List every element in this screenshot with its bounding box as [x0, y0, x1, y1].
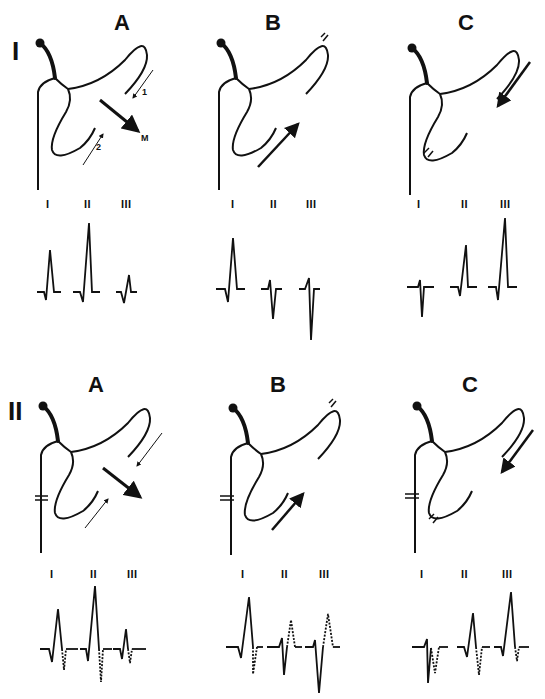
ecg-lead-III [488, 218, 517, 300]
heart-diagram-IB [217, 33, 329, 190]
ecg-lead-III [299, 278, 320, 340]
ecg-traces-row-II [40, 586, 529, 693]
ecg-traces-row-I [37, 218, 517, 340]
heart-diagram-IA [36, 39, 154, 191]
ecg-lead-II [80, 586, 99, 661]
conduction-diagram [0, 0, 545, 699]
ecg-lead-II [261, 280, 282, 319]
ecg-lead-II [267, 638, 287, 675]
ecg-lead-II [450, 245, 477, 296]
heart-diagram-IIB [220, 399, 340, 555]
ecg-lead-II [457, 613, 476, 657]
ecg-lead-III [116, 275, 137, 303]
ecg-lead-I [40, 609, 62, 662]
ecg-lead-II [73, 223, 100, 302]
ecg-lead-III [113, 629, 128, 659]
heart-diagram-IIA [35, 402, 162, 554]
ecg-lead-I [226, 597, 253, 658]
vector-arrow-icon [498, 62, 530, 106]
vector-arrow-icon [103, 468, 140, 497]
ecg-lead-III [305, 640, 323, 693]
ecg-lead-III [494, 592, 515, 656]
vector-arrow-icon [272, 494, 303, 530]
ecg-lead-I [216, 238, 245, 302]
ecg-lead-I [412, 639, 431, 683]
ecg-lead-I [37, 250, 61, 300]
ecg-lead-I [407, 280, 434, 317]
heart-diagram-IIC [405, 402, 533, 554]
heart-diagram-IC [408, 44, 531, 196]
vector-arrow-icon [100, 100, 138, 131]
